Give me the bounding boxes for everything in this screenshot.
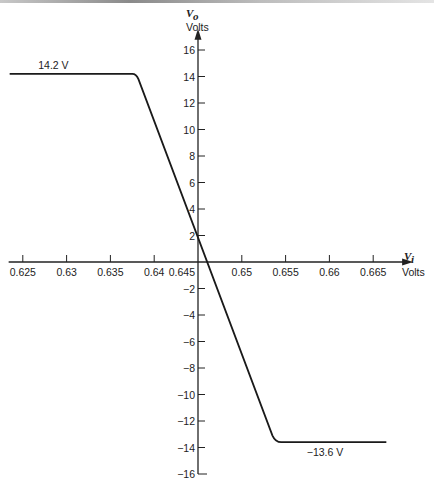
y-tick-label: −2 [183,283,195,295]
y-tick-label: 6 [189,177,195,189]
y-tick-label: 4 [189,203,195,215]
chart: 0.6250.630.6350.640.6450.650.6550.660.66… [0,0,434,485]
x-tick-label: 0.655 [272,266,298,278]
y-tick-label: 8 [189,150,195,162]
y-tick-label: −8 [183,362,195,374]
y-tick-label: −6 [183,336,195,348]
y-axis-title: V o Volts [186,7,209,33]
y-axis-unit: Volts [186,21,209,33]
y-tick-label: −14 [177,442,195,454]
x-tick-label: 0.625 [10,266,36,278]
x-axis-unit: Volts [402,266,425,278]
axes [9,29,413,474]
x-axis-subscript: i [411,253,415,265]
y-tick-label: −12 [177,415,195,427]
annotation-negative-saturation: −13.6 V [307,446,344,458]
x-tick-label: 0.665 [360,266,386,278]
y-tick-label: 16 [183,44,195,56]
y-tick-label: −4 [183,309,195,321]
x-tick-label: 0.64 [144,266,165,278]
y-tick-label: 10 [183,124,195,136]
x-tick-label: 0.645 [169,266,195,278]
y-tick-label: 14 [183,71,195,83]
y-tick-label: −10 [177,389,195,401]
x-tick-label: 0.66 [319,266,340,278]
y-tick-label: 2 [189,230,195,242]
x-tick-label: 0.635 [97,266,123,278]
annotation-positive-saturation: 14.2 V [38,59,68,71]
x-tick-label: 0.63 [56,266,77,278]
y-tick-label: 12 [183,97,195,109]
x-tick-label: 0.65 [232,266,253,278]
y-tick-label: −16 [177,468,195,480]
